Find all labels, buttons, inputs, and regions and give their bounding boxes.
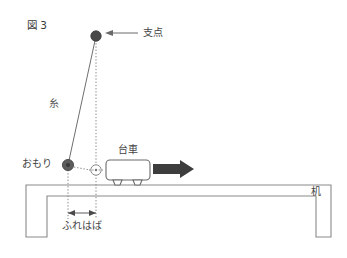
- fulcrum-pointer-arrowhead: [105, 30, 113, 36]
- weight-bob-center: [66, 163, 70, 167]
- swing-width-label: ふれはば: [62, 220, 102, 231]
- fulcrum-point: [91, 31, 101, 41]
- cart-direction-arrow: [153, 160, 194, 178]
- cart-body: [106, 160, 150, 180]
- cart-label: 台車: [118, 143, 138, 155]
- fulcrum-label: 支点: [143, 27, 163, 38]
- swing-width-arrowhead-right: [89, 210, 96, 216]
- figure-title: 図 3: [27, 19, 47, 31]
- desk-label: 机: [311, 185, 321, 197]
- swing-width-arrowhead-left: [68, 210, 75, 216]
- weight-label: おもり: [22, 158, 52, 169]
- cart-wheel-left: [113, 180, 122, 185]
- pendulum-string: [68, 36, 96, 165]
- cart-wheel-right: [133, 180, 142, 185]
- bob-to-rest-connector: [74, 167, 90, 170]
- figure-canvas: 図 3 机 糸 支点 おもり 台車: [0, 0, 347, 258]
- pendulum-cart-diagram: 図 3 机 糸 支点 おもり 台車: [0, 0, 347, 258]
- string-label: 糸: [49, 98, 59, 109]
